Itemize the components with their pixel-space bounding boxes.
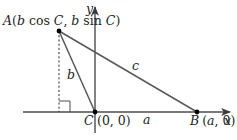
point-a-c1: C: [54, 13, 64, 28]
side-c-label: c: [132, 58, 139, 73]
point-b-rest: , 0): [215, 113, 236, 128]
side-c-line: [59, 31, 197, 112]
point-c-coords: (0, 0): [97, 113, 131, 128]
point-b-name: B: [189, 113, 199, 128]
point-c-name: C: [84, 113, 94, 128]
point-a: [57, 29, 62, 34]
side-a-label: a: [143, 112, 150, 127]
right-angle-marker: [59, 101, 70, 112]
point-a-b2: b: [71, 13, 79, 28]
side-b-label: b: [67, 67, 75, 82]
side-b-line: [59, 31, 95, 112]
point-a-cos: cos: [25, 13, 54, 28]
point-b-a: a: [207, 113, 214, 128]
triangle-diagram: y x A)(b cos C, b sin C) C (0, 0) B(a, 0…: [0, 0, 237, 140]
point-a-sin: sin: [79, 13, 105, 28]
point-a-name: A: [2, 13, 12, 28]
point-a-comma: ,: [63, 13, 71, 28]
point-a-b1: b: [17, 13, 25, 28]
diagram-svg: y x A)(b cos C, b sin C) C (0, 0) B(a, 0…: [0, 0, 237, 140]
point-a-c2: C: [106, 13, 116, 28]
point-a-close: ): [115, 13, 120, 28]
point-b-label: B(a, 0): [189, 113, 235, 128]
point-a-label: A)(b cos C, b sin C): [2, 13, 120, 28]
